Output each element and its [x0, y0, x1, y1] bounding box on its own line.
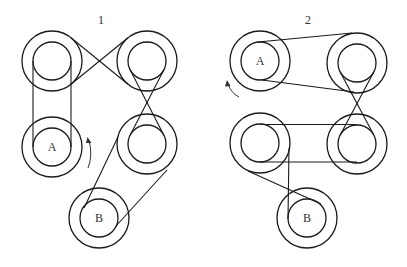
pulley-b: B: [69, 188, 129, 248]
diagram-number-1: 1: [98, 13, 104, 27]
pulley-tl: [22, 31, 82, 91]
pulley-label: A: [256, 54, 265, 68]
pulley-outer-rim: [327, 33, 387, 93]
pulley-a: A: [230, 31, 290, 91]
diagram-2-belts: [248, 33, 374, 219]
pulley-outer-rim: [117, 31, 177, 91]
pulley-label: B: [303, 211, 311, 225]
rotation-arrow-icon: [86, 137, 92, 168]
pulley-inner-rim: [33, 42, 71, 80]
rotation-arrow-icon: [225, 80, 239, 97]
pulley-outer-rim: [230, 113, 290, 173]
pulley-inner-rim: [128, 125, 166, 163]
pulley-outer-rim: [22, 31, 82, 91]
belt-br-b-open: [116, 170, 167, 226]
pulley-outer-rim: [117, 114, 177, 174]
diagram-1-belts: [33, 38, 167, 226]
pulley-br: [117, 114, 177, 174]
pulley-tr: [327, 33, 387, 93]
pulley-br: [327, 114, 387, 174]
pulley-outer-rim: [327, 114, 387, 174]
pulley-a: A: [22, 117, 82, 177]
diagram-number-2: 2: [305, 13, 311, 27]
pulley-inner-rim: [241, 124, 279, 162]
pulley-inner-rim: [338, 44, 376, 82]
pulley-tr: [117, 31, 177, 91]
belt-drive-diagrams: 1 AB 2 AB: [0, 0, 407, 267]
belt-br-b-open: [84, 137, 118, 208]
belt-bl-b-open: [288, 148, 289, 219]
diagram-1-pulleys: AB: [22, 31, 177, 248]
pulley-b: B: [277, 188, 337, 248]
diagram-2-pulleys: AB: [230, 31, 387, 248]
pulley-bl: [230, 113, 290, 173]
pulley-label: A: [48, 140, 57, 154]
diagram-1: 1 AB: [22, 13, 177, 248]
pulley-inner-rim: [338, 125, 376, 163]
diagram-2: 2 AB: [225, 13, 387, 248]
pulley-label: B: [95, 211, 103, 225]
pulley-inner-rim: [128, 42, 166, 80]
